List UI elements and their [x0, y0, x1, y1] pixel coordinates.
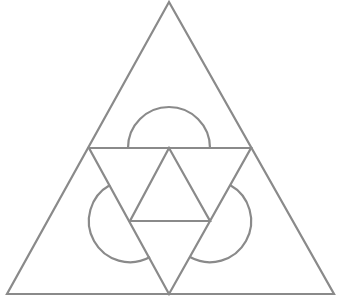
geometric-diagram: [0, 0, 339, 299]
inner-triangle: [130, 148, 210, 221]
semicircle-right: [190, 185, 251, 262]
semicircle-left: [89, 185, 150, 262]
semicircle-top: [128, 107, 210, 148]
diagram-shapes: [7, 2, 334, 294]
